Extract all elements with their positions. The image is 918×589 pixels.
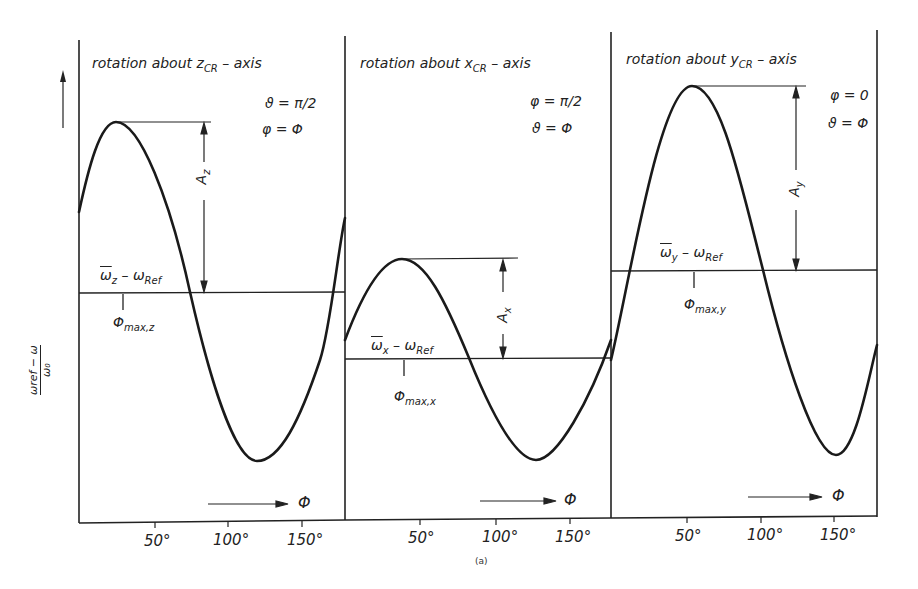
y-axis-label-denominator: ω₀ xyxy=(41,345,52,395)
panel-z-param2: φ = Φ xyxy=(262,122,303,136)
panel-y-tick-100: 100° xyxy=(747,528,783,543)
figure-caption: (a) xyxy=(475,556,488,566)
panel-z-param1: ϑ = π/2 xyxy=(265,96,316,110)
panel-x-mean-label: ωx – ωRef xyxy=(371,338,433,356)
panel-z-amplitude-label: Az xyxy=(194,170,212,185)
panel-frames xyxy=(79,30,877,523)
panel-z-tick-100: 100° xyxy=(213,533,249,548)
panel-z-tick-50: 50° xyxy=(144,534,171,549)
panel-z-title: rotation about zCR – axis xyxy=(92,56,262,74)
panel-y-tick-150: 150° xyxy=(820,528,856,543)
panel-x-tick-100: 100° xyxy=(482,530,518,545)
panel-y-phi-max-label: Φmax,y xyxy=(684,297,726,315)
curves xyxy=(79,86,877,461)
panel-z-tick-150: 150° xyxy=(287,533,323,548)
panel-x-phi-arrow-label: Φ xyxy=(564,492,577,508)
panel-z-mean-label: ωz – ωRef xyxy=(100,268,161,286)
peak-lines xyxy=(118,86,806,259)
mean-lines xyxy=(79,270,877,376)
panel-y-amplitude-label: Ay xyxy=(787,181,805,197)
y-axis-label: ωref − ω ω₀ xyxy=(28,345,52,395)
y-axis-arrow-icon xyxy=(60,70,66,128)
panel-x-tick-50: 50° xyxy=(408,531,435,546)
panel-y-phi-arrow-label: Φ xyxy=(832,488,845,504)
panel-x-phi-max-label: Φmax,x xyxy=(394,389,436,407)
panel-y-param2: ϑ = Φ xyxy=(828,116,868,130)
panel-z-phi-max-label: Φmax,z xyxy=(113,315,154,333)
panel-x-amplitude-label: Ax xyxy=(495,307,513,323)
figure-canvas xyxy=(0,0,918,589)
panel-x-param1: φ = π/2 xyxy=(530,94,582,108)
panel-x-tick-150: 150° xyxy=(555,530,591,545)
panel-x-title: rotation about xCR – axis xyxy=(360,56,531,74)
panel-z-phi-arrow-label: Φ xyxy=(298,495,311,511)
panel-y-param1: φ = 0 xyxy=(830,88,869,102)
panel-y-title: rotation about yCR – axis xyxy=(626,52,797,70)
panel-x-param2: ϑ = Φ xyxy=(532,121,572,135)
panel-y-tick-50: 50° xyxy=(675,529,702,544)
panel-y-mean-label: ωy – ωRef xyxy=(660,245,722,263)
